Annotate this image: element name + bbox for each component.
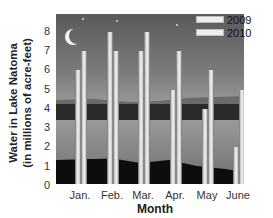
legend: 2009 2010 xyxy=(196,13,251,39)
moon-icon xyxy=(69,28,85,44)
y-axis-label-line-1: Water in Lake Natoma xyxy=(6,28,20,178)
x-tick-label: Jan. xyxy=(62,189,98,201)
legend-label: 2009 xyxy=(227,14,251,26)
y-axis-label: Water in Lake Natoma (in millions of acr… xyxy=(6,28,40,178)
x-axis-label: Month xyxy=(125,202,185,216)
bar-2010-feb xyxy=(113,51,119,184)
star-icon xyxy=(82,18,84,20)
y-tick-label: 3 xyxy=(40,122,50,133)
y-tick-label: 1 xyxy=(40,161,50,172)
star-icon xyxy=(116,20,118,22)
legend-swatch xyxy=(196,16,224,23)
y-tick-label: 4 xyxy=(40,103,50,114)
bar-2010-june xyxy=(239,90,244,185)
star-icon xyxy=(176,24,178,26)
y-tick-label: 0 xyxy=(40,180,50,191)
y-tick-label: 8 xyxy=(40,26,50,37)
bar-2010-jan xyxy=(81,51,87,184)
x-tick-label: Mar. xyxy=(125,189,161,201)
legend-swatch xyxy=(196,29,224,36)
bar-2010-may xyxy=(208,70,214,184)
bar-2010-apr xyxy=(176,51,182,184)
x-tick-label: Apr. xyxy=(157,189,193,201)
legend-label: 2010 xyxy=(227,27,251,39)
bar-2010-mar xyxy=(144,32,150,184)
legend-item-2009: 2009 xyxy=(196,13,251,26)
plot-area xyxy=(56,14,244,184)
y-tick-label: 7 xyxy=(40,45,50,56)
y-tick-label: 5 xyxy=(40,84,50,95)
y-tick-label: 6 xyxy=(40,64,50,75)
y-tick-label: 2 xyxy=(40,141,50,152)
x-tick-label: June xyxy=(220,189,256,201)
legend-item-2010: 2010 xyxy=(196,26,251,39)
y-axis-label-line-2: (in millions of acre-feet) xyxy=(20,28,34,178)
